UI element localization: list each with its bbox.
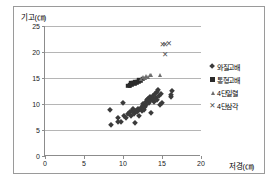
data-point — [168, 92, 174, 98]
legend-item-label: 통형고배 — [217, 75, 240, 85]
y-tick-mark — [42, 78, 45, 79]
y-gridline — [45, 26, 201, 27]
y-gridline — [45, 52, 201, 53]
plot-area: 051015202505101520✕✕✕✕ — [44, 26, 200, 156]
data-point — [108, 122, 114, 128]
y-gridline — [45, 78, 201, 79]
data-point — [168, 94, 174, 100]
data-point — [150, 96, 156, 102]
data-point — [150, 93, 156, 99]
data-point — [136, 107, 142, 113]
y-tick-label: 20 — [32, 49, 40, 56]
data-point — [149, 73, 153, 77]
y-tick-label: 10 — [32, 101, 40, 108]
data-point — [136, 113, 142, 119]
legend-item-label: 와질고배 — [217, 62, 240, 72]
data-point — [126, 84, 130, 88]
x-tick-label: 15 — [158, 160, 166, 167]
data-point — [129, 82, 133, 86]
y-tick-label: 0 — [36, 153, 40, 160]
data-point — [147, 94, 153, 100]
cross-marker-icon: ✕ — [208, 102, 217, 109]
y-axis-title: 기고(㎝) — [21, 11, 46, 22]
data-point — [154, 97, 160, 103]
legend-item-label: 4단삼각 — [217, 101, 238, 111]
x-tick-mark — [162, 156, 163, 159]
data-point — [125, 111, 131, 117]
data-point — [118, 119, 124, 125]
data-point — [158, 73, 162, 77]
data-point — [133, 79, 137, 83]
data-point: ✕ — [162, 41, 169, 48]
data-point — [139, 108, 145, 114]
scatter-chart: 기고(㎝) 저경(㎝) 051015202505101520✕✕✕✕ 와질고배통… — [0, 0, 273, 188]
data-point — [148, 73, 152, 77]
data-point — [115, 115, 121, 121]
data-point — [127, 109, 133, 115]
data-point — [156, 93, 162, 99]
chart-legend: 와질고배통형고배4단일렬✕4단삼각 — [208, 60, 262, 112]
data-point — [153, 95, 159, 101]
data-point — [146, 100, 152, 106]
data-point — [129, 108, 135, 114]
data-point — [138, 105, 144, 111]
data-point — [141, 107, 147, 113]
data-point — [128, 113, 134, 119]
x-tick-label: 5 — [82, 160, 86, 167]
x-tick-mark — [84, 156, 85, 159]
data-point — [129, 81, 133, 85]
data-point — [130, 106, 136, 112]
data-point — [131, 80, 135, 84]
y-tick-mark — [42, 104, 45, 105]
data-point — [128, 83, 132, 87]
data-point — [131, 111, 137, 117]
x-tick-label: 0 — [43, 160, 47, 167]
data-point — [144, 97, 150, 103]
data-point — [133, 108, 139, 114]
x-tick-label: 20 — [197, 160, 205, 167]
data-point — [169, 88, 175, 94]
data-point — [149, 95, 155, 101]
legend-item-3[interactable]: 4단일렬 — [208, 86, 262, 99]
data-point — [145, 96, 151, 102]
data-point — [148, 110, 154, 116]
data-point — [121, 114, 127, 120]
data-point — [107, 107, 113, 113]
y-tick-label: 25 — [32, 23, 40, 30]
legend-item-2[interactable]: 통형고배 — [208, 73, 262, 86]
data-point — [154, 89, 160, 95]
data-point — [135, 80, 139, 84]
data-point — [123, 115, 129, 121]
data-point — [152, 91, 158, 97]
diamond-marker-icon — [208, 64, 217, 68]
data-point: ✕ — [166, 39, 173, 46]
x-tick-mark — [45, 156, 46, 159]
x-tick-mark — [201, 156, 202, 159]
data-point — [134, 109, 140, 115]
data-point — [132, 82, 136, 86]
data-point — [115, 119, 121, 125]
y-gridline — [45, 104, 201, 105]
y-tick-mark — [42, 52, 45, 53]
y-gridline — [45, 130, 201, 131]
data-point — [147, 98, 153, 104]
data-point — [139, 78, 143, 82]
triangle-marker-icon — [208, 91, 217, 95]
y-tick-label: 15 — [32, 75, 40, 82]
data-point — [159, 100, 165, 106]
data-point — [155, 87, 161, 93]
y-tick-mark — [42, 26, 45, 27]
data-point — [135, 106, 141, 112]
y-tick-label: 5 — [36, 127, 40, 134]
data-point: ✕ — [159, 40, 166, 47]
legend-item-4[interactable]: ✕4단삼각 — [208, 99, 262, 112]
x-tick-label: 10 — [119, 160, 127, 167]
data-point — [132, 120, 138, 126]
data-point — [136, 79, 140, 83]
legend-item-1[interactable]: 와질고배 — [208, 60, 262, 73]
square-marker-icon — [208, 77, 217, 81]
legend-item-label: 4단일렬 — [217, 88, 238, 98]
x-axis-title: 저경(㎝) — [229, 160, 254, 171]
data-point — [158, 91, 164, 97]
x-tick-mark — [123, 156, 124, 159]
